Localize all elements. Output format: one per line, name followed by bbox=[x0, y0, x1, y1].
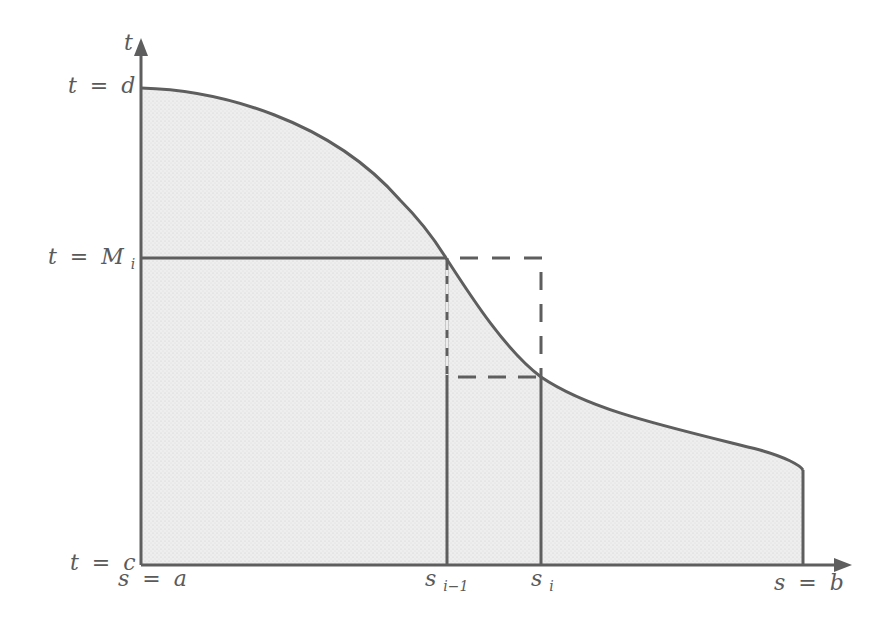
label-s-equals-a: s = a bbox=[118, 566, 187, 591]
label-t-equals-d: t = d bbox=[68, 73, 135, 98]
t-axis-label: t bbox=[124, 30, 133, 55]
label-t-equals-mi: t = M i bbox=[48, 244, 135, 272]
shaded-region bbox=[141, 88, 803, 565]
label-s-i: s i bbox=[531, 566, 554, 594]
label-s-i-minus-1: s i−1 bbox=[425, 566, 468, 594]
t-axis-arrow-icon bbox=[134, 38, 148, 56]
label-s-equals-b: s = b bbox=[774, 570, 844, 595]
integration-diagram: t t = d t = M i t = c s = a s i−1 s i s … bbox=[0, 0, 894, 629]
